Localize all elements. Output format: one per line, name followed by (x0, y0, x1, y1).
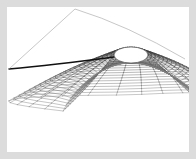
figure-frame: 3D parametric wireframe surface Horn / t… (0, 0, 196, 159)
figure-panel (7, 7, 189, 152)
wireframe-surface-plot (7, 7, 189, 152)
